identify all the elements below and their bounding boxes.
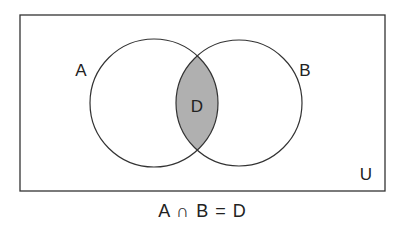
diagram-caption: A ∩ B = D [0, 201, 405, 222]
venn-diagram: A B D U [0, 0, 405, 225]
intersection-label: D [191, 97, 203, 116]
universe-label: U [360, 165, 372, 184]
set-b-label: B [299, 61, 310, 80]
set-a-label: A [75, 61, 87, 80]
